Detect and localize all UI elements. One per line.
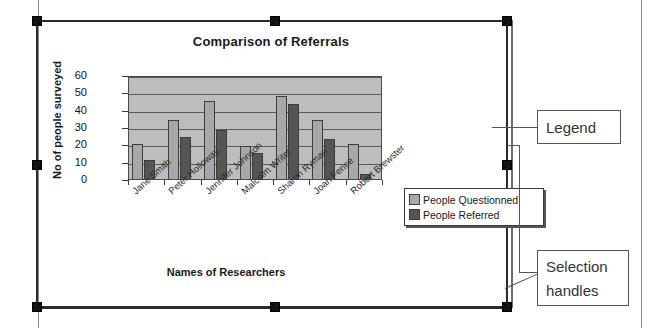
leader-line-legend (492, 127, 537, 128)
chart-title: Comparison of Referrals (36, 34, 506, 49)
page-rule-right (641, 0, 642, 328)
legend-label: People Questionned (423, 194, 518, 206)
y-tick-label: 40 (53, 105, 87, 116)
y-tick-label: 0 (53, 174, 87, 185)
y-tick-label: 30 (53, 122, 87, 133)
selection-handle-middle-right[interactable] (502, 160, 512, 170)
leader-line-frame-vertical (519, 145, 520, 272)
y-tick-label: 50 (53, 87, 87, 98)
x-axis-title: Names of Researchers (56, 266, 396, 278)
bar-0[interactable] (168, 120, 179, 179)
callout-legend: Legend (537, 110, 621, 144)
x-tick-mark (273, 180, 274, 185)
x-tick-mark (201, 180, 202, 185)
chart-legend[interactable]: People QuestionnedPeople Referred (404, 188, 544, 226)
selection-handle-bottom-left[interactable] (32, 302, 42, 312)
selection-handle-top-right[interactable] (502, 16, 512, 26)
x-tick-mark (128, 180, 129, 185)
y-tick-label: 10 (53, 157, 87, 168)
x-tick-mark (382, 180, 383, 185)
bar-0[interactable] (204, 101, 215, 179)
callout-selection-handles: Selection handles (537, 250, 629, 306)
x-tick-mark (309, 180, 310, 185)
legend-label: People Referred (423, 209, 499, 221)
selection-handle-bottom-middle[interactable] (270, 302, 280, 312)
selection-handle-top-middle[interactable] (270, 16, 280, 26)
x-tick-mark (346, 180, 347, 185)
leader-line-handle-diagonal (505, 273, 538, 289)
x-tick-mark (237, 180, 238, 185)
selection-handle-bottom-right[interactable] (502, 302, 512, 312)
y-tick-label: 60 (53, 70, 87, 81)
selection-handle-middle-left[interactable] (32, 160, 42, 170)
selection-handle-top-left[interactable] (32, 16, 42, 26)
y-tick-label: 20 (53, 139, 87, 150)
legend-swatch-icon (409, 209, 420, 220)
chart-object[interactable]: Comparison of Referrals No of people sur… (36, 20, 506, 308)
chart-selection-frame[interactable]: Comparison of Referrals No of people sur… (36, 20, 508, 308)
leader-line-handles (519, 272, 537, 273)
legend-swatch-icon (409, 194, 420, 205)
x-tick-mark (164, 180, 165, 185)
bar-0[interactable] (132, 144, 143, 179)
plot-wrapper: 6050403020100 Jane SmithPeter HollowayJe… (91, 76, 383, 194)
